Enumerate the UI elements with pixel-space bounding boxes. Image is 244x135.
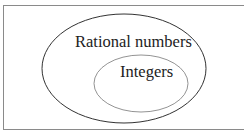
integers-label: Integers bbox=[120, 62, 173, 81]
rational-numbers-label: Rational numbers bbox=[75, 32, 192, 51]
venn-diagram: Rational numbers Integers bbox=[0, 0, 244, 135]
